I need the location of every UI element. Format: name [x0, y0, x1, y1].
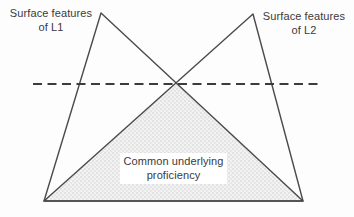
l1-surface-label-line2: of L1	[8, 21, 94, 35]
l2-surface-label: Surface features of L2	[261, 10, 347, 37]
cup-label-line2: proficiency	[120, 169, 227, 183]
dual-iceberg-diagram: Surface features of L1 Surface features …	[0, 0, 354, 217]
cup-label-line1: Common underlying	[120, 155, 227, 169]
l2-surface-label-line1: Surface features	[261, 10, 347, 24]
cup-label-box: Common underlying proficiency	[120, 153, 227, 184]
l1-surface-label-line1: Surface features	[8, 7, 94, 21]
l1-surface-label: Surface features of L1	[8, 7, 94, 34]
l2-surface-label-line2: of L2	[261, 24, 347, 38]
